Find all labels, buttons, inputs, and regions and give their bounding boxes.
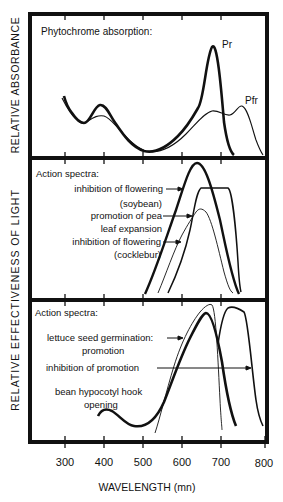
svg-text:800: 800: [255, 457, 273, 469]
pfr-label: Pfr: [245, 95, 258, 106]
pr-curve: [64, 46, 234, 155]
inhibition-label: inhibition of promotion: [46, 362, 139, 373]
y-axis-label-absorbance: RELATIVE ABSORBANCE: [9, 17, 21, 154]
bean-label-line2: opening: [84, 399, 118, 410]
svg-text:300: 300: [56, 456, 74, 468]
svg-text:600: 600: [173, 456, 191, 468]
y-axis-label-effectiveness: RELATIVE EFFECTIVENESS OF LIGHT: [9, 189, 21, 411]
x-axis-label: WAVELENGTH (mn): [99, 481, 196, 493]
pea-label-line2: leaf expansion: [101, 223, 162, 234]
soybean-label-line2: (soybean): [120, 198, 162, 209]
svg-text:700: 700: [212, 456, 230, 468]
inhibition-curve: [218, 307, 263, 426]
cocklebur-label-line2: (cocklebur): [114, 249, 161, 260]
x-tick-labels: 300 400 500 600 700 800: [56, 456, 273, 469]
panel1-title: Phytochrome absorption:: [41, 26, 152, 37]
bean-label-line1: bean hypocotyl hook: [55, 386, 142, 397]
soybean-label-line1: inhibition of flowering: [74, 183, 163, 194]
panel2-title: Action spectra:: [36, 168, 99, 179]
pea-label-line1: promotion of pea: [91, 210, 163, 221]
panel3-title: Action spectra:: [35, 307, 98, 318]
svg-text:500: 500: [134, 456, 152, 468]
pfr-curve: [62, 98, 263, 155]
pr-label: Pr: [222, 39, 233, 50]
lettuce-label-line1: lettuce seed germination:: [47, 332, 153, 343]
lettuce-label-line2: promotion: [82, 345, 124, 356]
panel3-arrows: [157, 336, 251, 370]
cocklebur-label-line1: inhibition of flowering: [72, 236, 161, 247]
cocklebur-curve: [158, 209, 233, 293]
phytochrome-figure: 300 400 500 600 700 800 WAVELENGTH (mn) …: [0, 0, 283, 502]
svg-text:400: 400: [95, 456, 113, 468]
